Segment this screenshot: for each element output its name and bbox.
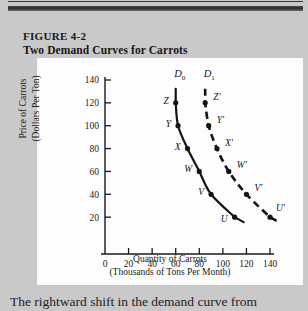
y-tick-label: 100 — [85, 121, 100, 131]
figure-title: Two Demand Curves for Carrots — [23, 44, 188, 56]
y-tick-label: 20 — [90, 213, 100, 223]
point-label-Y: Y — [166, 119, 173, 129]
data-point-X-prime — [214, 146, 219, 151]
curve-labels: D0D1 — [173, 68, 215, 82]
y-axis-ticks: 20406080100120140 — [85, 75, 111, 222]
data-point-U — [232, 215, 237, 220]
point-label-U: U — [221, 214, 229, 224]
data-point-W — [197, 169, 202, 174]
y-tick-label: 80 — [90, 144, 100, 154]
data-point-X — [185, 146, 190, 151]
point-label-W: W — [184, 164, 193, 174]
x-tick-label: 80 — [195, 259, 205, 269]
data-point-Z — [173, 100, 178, 105]
point-label-Z-prime: Z' — [213, 92, 221, 102]
x-tick-label: 20 — [124, 259, 134, 269]
y-tick-label: 140 — [85, 75, 100, 85]
data-points: ZYXWVUZ'Y'X'W'V'U' — [163, 92, 285, 224]
y-axis-title-main: Price of Carrots — [18, 78, 28, 138]
data-point-W-prime — [226, 169, 231, 174]
data-point-Z-prime — [203, 100, 208, 105]
point-label-X: X — [174, 142, 182, 152]
data-point-V — [208, 192, 213, 197]
curve-label-D1: D1 — [203, 68, 216, 82]
curve-label-D0: D0 — [173, 68, 186, 82]
data-point-U-prime — [267, 215, 272, 220]
x-tick-label: 60 — [171, 259, 181, 269]
x-tick-label: 100 — [216, 259, 231, 269]
x-tick-label: 0 — [103, 259, 108, 269]
top-heavy-rule — [8, 6, 303, 11]
point-label-X-prime: X' — [224, 138, 234, 148]
body-caption: The rightward shift in the demand curve … — [10, 292, 302, 311]
demand-curves — [176, 89, 279, 222]
data-point-Y — [175, 123, 180, 128]
y-tick-label: 60 — [90, 167, 100, 177]
point-label-Y-prime: Y' — [217, 115, 225, 125]
figure-header: FIGURE 4-2 Two Demand Curves for Carrots — [8, 14, 303, 54]
x-tick-label: 140 — [263, 259, 278, 269]
x-tick-label: 40 — [147, 259, 157, 269]
y-tick-label: 120 — [85, 98, 100, 108]
point-label-V: V — [198, 187, 205, 197]
data-point-Y-prime — [206, 123, 211, 128]
curve-label-subscript: 1 — [211, 74, 215, 82]
curve-label-subscript: 0 — [182, 74, 186, 82]
x-tick-label: 120 — [239, 259, 254, 269]
demand-curve-D1 — [205, 89, 279, 222]
point-label-V-prime: V' — [254, 183, 263, 193]
point-label-U-prime: U' — [276, 203, 286, 213]
point-label-Z: Z — [163, 96, 169, 106]
demand-curve-plot: 20406080100120140 020406080100120140 ZYX… — [37, 58, 303, 285]
x-axis-ticks: 020406080100120140 — [103, 248, 278, 269]
y-tick-label: 40 — [90, 190, 100, 200]
data-point-V-prime — [244, 192, 249, 197]
point-label-W-prime: W' — [237, 160, 248, 170]
top-hairline-rule — [8, 1, 303, 2]
demand-curve-D0 — [176, 89, 244, 222]
